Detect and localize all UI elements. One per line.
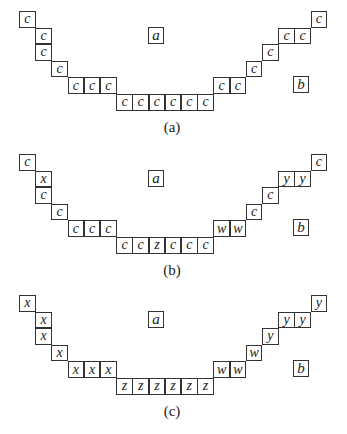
grid-cell: c: [262, 44, 279, 61]
grid-cell: c: [116, 94, 133, 111]
panel-caption: (c): [142, 403, 202, 420]
marker-a: a: [148, 170, 164, 187]
grid-cell: c: [246, 61, 263, 78]
grid-cell: c: [132, 94, 149, 111]
grid-cell: w: [213, 220, 230, 237]
grid-cell: x: [84, 361, 101, 378]
grid-cell: y: [311, 295, 328, 312]
grid-cell: c: [213, 77, 230, 94]
grid-cell: c: [84, 77, 101, 94]
panel-c: xxxxxxxzzzzzzwwwyyyy a b (c): [0, 284, 347, 424]
grid-cell: c: [51, 204, 68, 221]
grid-cell: c: [35, 28, 52, 45]
grid-cell: c: [230, 77, 247, 94]
grid-cell: c: [181, 237, 198, 254]
grid-cell: c: [197, 237, 214, 254]
grid-cell: c: [246, 204, 263, 221]
grid-cell: x: [35, 171, 52, 188]
grid-cell: x: [35, 328, 52, 345]
grid-cell: c: [100, 220, 117, 237]
grid-cell: x: [35, 312, 52, 329]
grid-cell: c: [19, 11, 36, 28]
grid-cell: x: [100, 361, 117, 378]
grid-cell: c: [132, 237, 149, 254]
grid-cell: z: [116, 378, 133, 395]
grid-cell: c: [165, 94, 182, 111]
grid-cell: c: [311, 11, 328, 28]
grid-cell: z: [149, 237, 166, 254]
grid-cell: z: [149, 378, 166, 395]
grid-cell: z: [132, 378, 149, 395]
grid-cell: y: [294, 312, 311, 329]
grid-cell: c: [68, 220, 85, 237]
grid-cell: c: [278, 28, 295, 45]
grid-cell: c: [311, 154, 328, 171]
grid-cell: c: [294, 28, 311, 45]
grid-cell: w: [246, 345, 263, 362]
grid-cell: c: [51, 61, 68, 78]
grid-cell: x: [19, 295, 36, 312]
grid-cell: c: [149, 94, 166, 111]
grid-cell: c: [116, 237, 133, 254]
grid-cell: y: [278, 312, 295, 329]
panel-caption: (b): [142, 262, 202, 279]
marker-b: b: [293, 360, 309, 377]
grid-cell: z: [181, 378, 198, 395]
grid-cell: c: [35, 44, 52, 61]
grid-cell: c: [19, 154, 36, 171]
grid-cell: z: [197, 378, 214, 395]
grid-cell: c: [35, 187, 52, 204]
marker-b: b: [293, 76, 309, 93]
grid-cell: c: [84, 220, 101, 237]
grid-cell: c: [100, 77, 117, 94]
grid-cell: y: [262, 328, 279, 345]
grid-cell: x: [51, 345, 68, 362]
grid-cell: c: [68, 77, 85, 94]
marker-b: b: [293, 219, 309, 236]
panel-b: cxccccccczcccwwccyyc a b (b): [0, 143, 347, 283]
grid-cell: c: [262, 187, 279, 204]
grid-cell: c: [197, 94, 214, 111]
grid-cell: c: [181, 94, 198, 111]
panel-caption: (a): [142, 119, 202, 136]
grid-cell: w: [213, 361, 230, 378]
panel-a: cccccccccccccccccccc a b (a): [0, 0, 347, 140]
marker-a: a: [148, 311, 164, 328]
grid-cell: x: [68, 361, 85, 378]
grid-cell: y: [278, 171, 295, 188]
grid-cell: w: [230, 220, 247, 237]
grid-cell: y: [294, 171, 311, 188]
grid-cell: w: [230, 361, 247, 378]
grid-cell: c: [165, 237, 182, 254]
grid-cell: z: [165, 378, 182, 395]
marker-a: a: [148, 27, 164, 44]
